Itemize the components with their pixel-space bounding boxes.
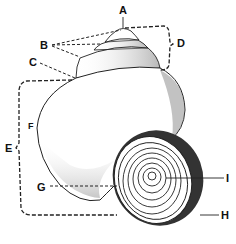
label-G: G bbox=[37, 182, 46, 193]
shell-diagram bbox=[0, 0, 236, 244]
leader-B3 bbox=[52, 46, 80, 57]
label-I: I bbox=[226, 173, 229, 184]
leader-C bbox=[40, 63, 75, 78]
label-F: F bbox=[28, 121, 34, 132]
label-H: H bbox=[221, 210, 229, 221]
label-B: B bbox=[40, 40, 48, 51]
label-A: A bbox=[119, 5, 127, 16]
leader-B2 bbox=[52, 44, 101, 45]
label-C: C bbox=[29, 57, 37, 68]
label-E: E bbox=[5, 143, 12, 154]
label-D: D bbox=[177, 38, 185, 49]
